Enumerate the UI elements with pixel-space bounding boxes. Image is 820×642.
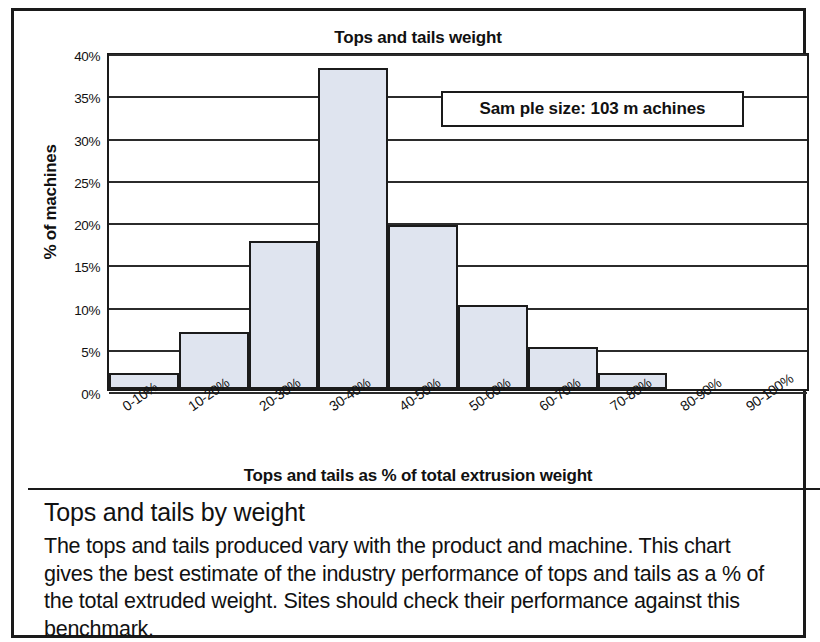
bar-40-50%	[388, 225, 458, 389]
x-label-slot: 30-40%	[318, 393, 388, 467]
bar-50-60%	[458, 305, 528, 390]
y-axis-title: % of machines	[41, 87, 61, 317]
x-label-slot: 70-80%	[598, 393, 668, 467]
bar-20-30%	[249, 241, 319, 389]
x-label-slot: 0-10%	[107, 393, 177, 467]
y-axis-tick-label: 15%	[74, 260, 100, 275]
y-axis-tick-label: 5%	[81, 344, 100, 359]
y-axis-tick-label: 25%	[74, 175, 100, 190]
caption-body: The tops and tails produced vary with th…	[44, 533, 779, 642]
x-label-slot: 50-60%	[458, 393, 528, 467]
x-label-slot: 80-90%	[669, 393, 739, 467]
chart-region: Tops and tails weight % of machines 0%5%…	[28, 22, 820, 490]
y-axis-tick-label: 0%	[81, 387, 100, 402]
bar-slot	[249, 55, 319, 389]
y-axis-tick-label: 20%	[74, 218, 100, 233]
chart-title: Tops and tails weight	[28, 28, 808, 48]
bar-slot	[109, 55, 179, 389]
sample-size-annotation: Sam ple size: 103 m achines	[441, 91, 744, 127]
y-axis-tick-label: 40%	[74, 49, 100, 64]
x-label-slot: 10-20%	[177, 393, 247, 467]
x-label-slot: 60-70%	[528, 393, 598, 467]
document-frame: Tops and tails weight % of machines 0%5%…	[11, 8, 806, 638]
x-axis-title: Tops and tails as % of total extrusion w…	[28, 466, 808, 486]
bar-slot	[318, 55, 388, 389]
y-axis-tick-label: 10%	[74, 302, 100, 317]
x-axis-tick-labels: 0-10%10-20%20-30%30-40%40-50%50-60%60-70…	[107, 393, 809, 467]
y-axis-tick-label: 30%	[74, 133, 100, 148]
x-label-slot: 90-100%	[739, 393, 809, 467]
bar-slot	[737, 55, 807, 389]
x-label-slot: 40-50%	[388, 393, 458, 467]
caption-region: Tops and tails by weight The tops and ta…	[28, 498, 798, 642]
y-axis-tick-label: 35%	[74, 91, 100, 106]
x-label-slot: 20-30%	[247, 393, 317, 467]
caption-heading: Tops and tails by weight	[44, 498, 798, 527]
bar-30-40%	[318, 68, 388, 389]
bar-slot	[179, 55, 249, 389]
